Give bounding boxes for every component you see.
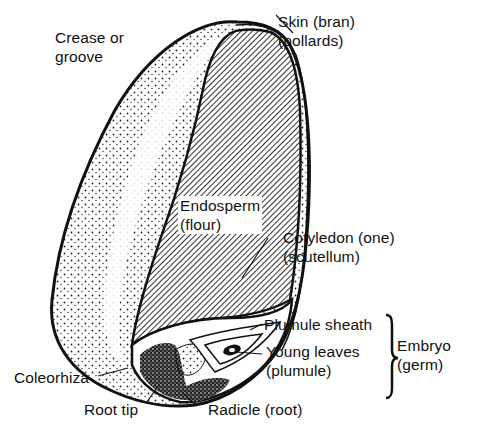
label-endosperm-line1: Endosperm — [180, 196, 260, 215]
label-skin-line1: Skin (bran) — [278, 12, 355, 31]
label-coleorhiza: Coleorhiza — [14, 368, 89, 387]
label-root-tip: Root tip — [84, 400, 138, 419]
label-young-leaves-line2: (plumule) — [266, 361, 360, 380]
label-young-leaves: Young leaves (plumule) — [266, 342, 360, 380]
label-radicle: Radicle (root) — [208, 400, 302, 419]
label-cotyledon-line1: Cotyledon (one) — [283, 228, 395, 247]
label-embryo-line2: (germ) — [397, 355, 451, 374]
label-crease-line1: Crease or — [55, 28, 124, 47]
label-skin-line2: (pollards) — [278, 31, 355, 50]
label-young-leaves-line1: Young leaves — [266, 342, 360, 361]
label-plumule-sheath: Plumule sheath — [264, 315, 372, 334]
label-embryo-line1: Embryo — [397, 336, 451, 355]
label-crease: Crease or groove — [55, 28, 124, 66]
label-skin: Skin (bran) (pollards) — [278, 12, 355, 50]
label-endosperm: Endosperm (flour) — [178, 196, 262, 234]
label-cotyledon-line2: (scutellum) — [283, 247, 395, 266]
label-cotyledon: Cotyledon (one) (scutellum) — [283, 228, 395, 266]
label-crease-line2: groove — [55, 47, 124, 66]
label-endosperm-line2: (flour) — [180, 215, 260, 234]
label-embryo: Embryo (germ) — [397, 336, 451, 374]
